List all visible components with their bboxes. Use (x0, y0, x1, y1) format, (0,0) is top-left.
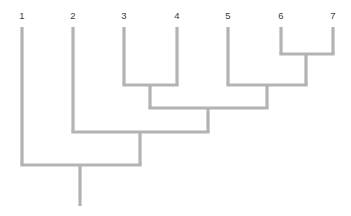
taxon-label-5: 5 (225, 10, 230, 21)
taxon-label-2: 2 (70, 10, 75, 21)
tip-branches (22, 27, 333, 165)
clade-5-6-7 (226, 85, 307, 108)
taxon-label-1: 1 (19, 10, 24, 21)
clade-6-7 (279, 54, 334, 85)
taxon-label-3: 3 (121, 10, 126, 21)
cladogram-canvas: 1 2 3 4 5 6 7 (0, 0, 351, 216)
clade-3-4-5-6-7 (148, 108, 268, 132)
taxon-label-7: 7 (330, 10, 335, 21)
taxon-label-6: 6 (278, 10, 283, 21)
clade-2-through-7 (71, 132, 209, 165)
clade-3-4 (122, 85, 178, 108)
cladogram-figure: 1 2 3 4 5 6 7 (0, 0, 351, 216)
taxon-label-4: 4 (174, 10, 179, 21)
taxon-labels: 1 2 3 4 5 6 7 (19, 10, 335, 21)
root-clade-1-through-7 (20, 165, 141, 206)
